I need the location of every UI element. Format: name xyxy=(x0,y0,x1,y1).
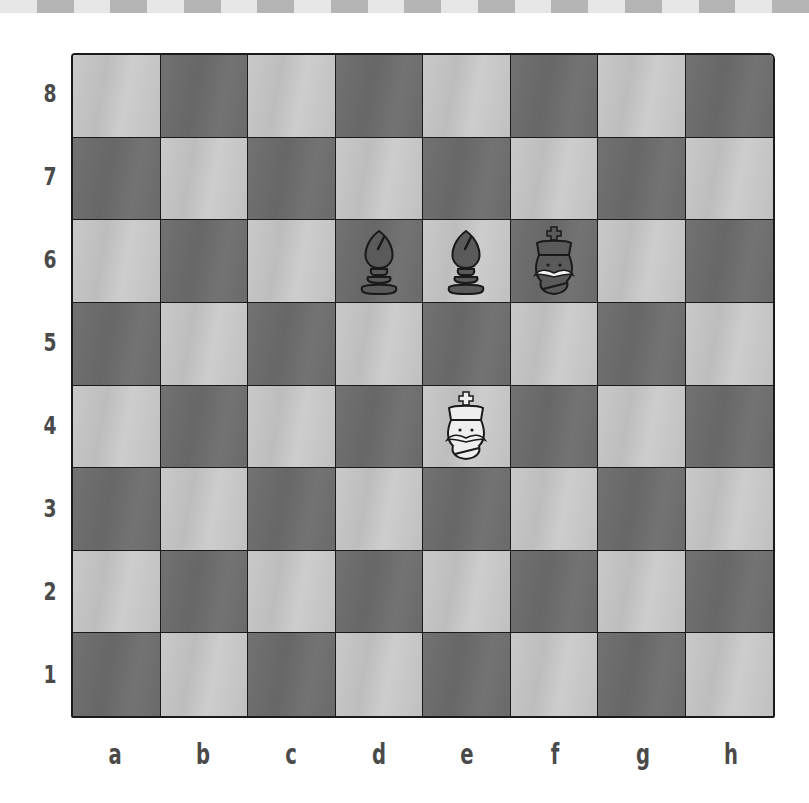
square-a4[interactable] xyxy=(73,386,161,469)
square-f7[interactable] xyxy=(511,138,599,221)
square-b6[interactable] xyxy=(161,220,249,303)
strip-segment xyxy=(74,0,111,13)
square-a5[interactable] xyxy=(73,303,161,386)
square-g5[interactable] xyxy=(598,303,686,386)
square-g3[interactable] xyxy=(598,468,686,551)
square-c6[interactable] xyxy=(248,220,336,303)
square-g2[interactable] xyxy=(598,551,686,634)
rank-label-7: 7 xyxy=(41,163,60,191)
strip-segment xyxy=(662,0,699,13)
rank-label-5: 5 xyxy=(41,329,60,357)
file-label-a: a xyxy=(105,738,126,771)
file-label-h: h xyxy=(721,738,742,771)
decorative-top-strip xyxy=(0,0,809,13)
strip-segment xyxy=(772,0,809,13)
file-label-g: g xyxy=(633,738,654,771)
strip-segment xyxy=(515,0,552,13)
file-label-d: d xyxy=(369,738,390,771)
square-g7[interactable] xyxy=(598,138,686,221)
square-b3[interactable] xyxy=(161,468,249,551)
strip-segment xyxy=(551,0,588,13)
square-c8[interactable] xyxy=(248,55,336,138)
square-h1[interactable] xyxy=(686,633,774,716)
square-e3[interactable] xyxy=(423,468,511,551)
file-label-c: c xyxy=(281,738,302,771)
square-f8[interactable] xyxy=(511,55,599,138)
square-f1[interactable] xyxy=(511,633,599,716)
square-h8[interactable] xyxy=(686,55,774,138)
square-h3[interactable] xyxy=(686,468,774,551)
board-grid xyxy=(73,55,773,716)
square-c4[interactable] xyxy=(248,386,336,469)
square-b4[interactable] xyxy=(161,386,249,469)
square-h5[interactable] xyxy=(686,303,774,386)
chess-board xyxy=(71,53,775,718)
square-c1[interactable] xyxy=(248,633,336,716)
strip-segment xyxy=(588,0,625,13)
square-d3[interactable] xyxy=(336,468,424,551)
square-b8[interactable] xyxy=(161,55,249,138)
square-f2[interactable] xyxy=(511,551,599,634)
strip-segment xyxy=(0,0,37,13)
strip-segment xyxy=(294,0,331,13)
white-king-icon[interactable] xyxy=(435,390,497,462)
file-label-b: b xyxy=(193,738,214,771)
square-d5[interactable] xyxy=(336,303,424,386)
square-h2[interactable] xyxy=(686,551,774,634)
strip-segment xyxy=(37,0,74,13)
square-d4[interactable] xyxy=(336,386,424,469)
rank-label-4: 4 xyxy=(41,412,60,440)
rank-label-8: 8 xyxy=(41,80,60,108)
square-e1[interactable] xyxy=(423,633,511,716)
square-g6[interactable] xyxy=(598,220,686,303)
square-e2[interactable] xyxy=(423,551,511,634)
square-c2[interactable] xyxy=(248,551,336,634)
square-e4[interactable] xyxy=(423,386,511,469)
square-d1[interactable] xyxy=(336,633,424,716)
square-a6[interactable] xyxy=(73,220,161,303)
black-king-icon[interactable] xyxy=(523,225,585,297)
square-d8[interactable] xyxy=(336,55,424,138)
square-e5[interactable] xyxy=(423,303,511,386)
square-h7[interactable] xyxy=(686,138,774,221)
square-f6[interactable] xyxy=(511,220,599,303)
square-h6[interactable] xyxy=(686,220,774,303)
square-a8[interactable] xyxy=(73,55,161,138)
square-e8[interactable] xyxy=(423,55,511,138)
square-b5[interactable] xyxy=(161,303,249,386)
strip-segment xyxy=(147,0,184,13)
square-f4[interactable] xyxy=(511,386,599,469)
square-d6[interactable] xyxy=(336,220,424,303)
square-e7[interactable] xyxy=(423,138,511,221)
square-f5[interactable] xyxy=(511,303,599,386)
rank-label-1: 1 xyxy=(41,661,60,689)
square-c5[interactable] xyxy=(248,303,336,386)
square-c7[interactable] xyxy=(248,138,336,221)
black-bishop-icon[interactable] xyxy=(435,225,497,297)
square-d2[interactable] xyxy=(336,551,424,634)
strip-segment xyxy=(331,0,368,13)
square-a1[interactable] xyxy=(73,633,161,716)
square-d7[interactable] xyxy=(336,138,424,221)
square-a3[interactable] xyxy=(73,468,161,551)
strip-segment xyxy=(184,0,221,13)
strip-segment xyxy=(221,0,258,13)
strip-segment xyxy=(699,0,736,13)
square-g1[interactable] xyxy=(598,633,686,716)
strip-segment xyxy=(478,0,515,13)
square-b2[interactable] xyxy=(161,551,249,634)
square-b1[interactable] xyxy=(161,633,249,716)
square-f3[interactable] xyxy=(511,468,599,551)
strip-segment xyxy=(257,0,294,13)
strip-segment xyxy=(441,0,478,13)
square-a7[interactable] xyxy=(73,138,161,221)
square-g4[interactable] xyxy=(598,386,686,469)
square-a2[interactable] xyxy=(73,551,161,634)
strip-segment xyxy=(368,0,405,13)
square-c3[interactable] xyxy=(248,468,336,551)
square-g8[interactable] xyxy=(598,55,686,138)
square-b7[interactable] xyxy=(161,138,249,221)
square-e6[interactable] xyxy=(423,220,511,303)
black-bishop-icon[interactable] xyxy=(348,225,410,297)
square-h4[interactable] xyxy=(686,386,774,469)
